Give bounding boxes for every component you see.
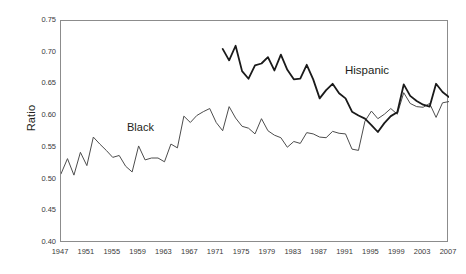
black-series-label: Black	[127, 121, 154, 133]
y-tick-label: 0.45	[4, 206, 56, 214]
y-tick-label: 0.55	[4, 143, 56, 151]
hispanic-series-label: Hispanic	[345, 64, 389, 76]
y-axis-tick-labels: 0.400.450.500.550.600.650.700.75	[0, 0, 56, 274]
chart-figure: Ratio 0.400.450.500.550.600.650.700.75 B…	[0, 0, 466, 274]
y-tick-label: 0.70	[4, 48, 56, 56]
black-series-path	[61, 93, 449, 175]
y-tick-label: 0.40	[4, 238, 56, 246]
x-tick-label: 2007	[431, 247, 465, 257]
y-tick-label: 0.65	[4, 79, 56, 87]
hispanic-series-path	[223, 46, 449, 132]
series-lines	[61, 21, 449, 243]
plot-area	[60, 20, 448, 242]
y-tick-label: 0.75	[4, 16, 56, 24]
y-tick-label: 0.60	[4, 111, 56, 119]
y-tick-label: 0.50	[4, 175, 56, 183]
x-axis-tick-labels: 1947195119551959196319671971197519791983…	[60, 247, 448, 261]
